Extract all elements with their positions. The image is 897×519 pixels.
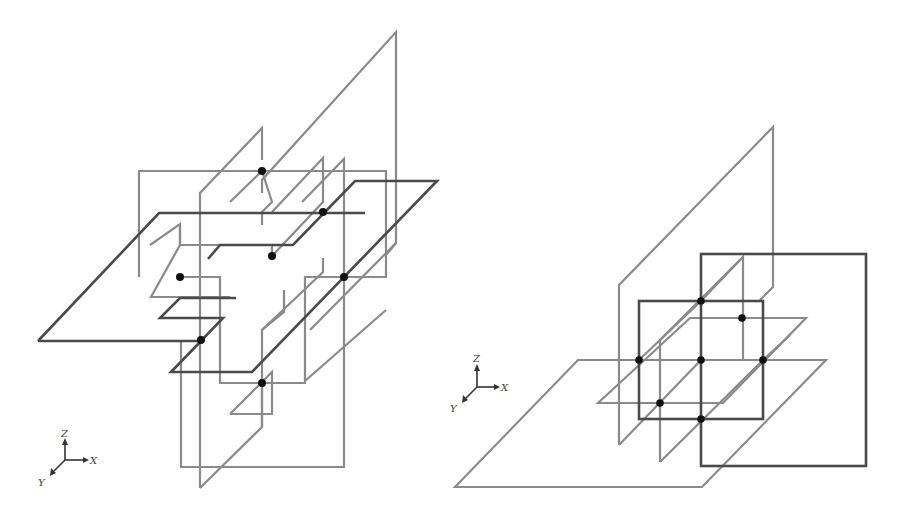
left-diag-1 xyxy=(305,310,386,381)
right-x-label: X xyxy=(500,382,509,393)
right-tall-plane xyxy=(619,127,773,445)
right-point-1 xyxy=(697,297,705,305)
right-point-3 xyxy=(635,356,643,364)
right-point-7 xyxy=(697,415,705,423)
left-small-plane-f xyxy=(230,372,272,414)
left-point-1 xyxy=(258,167,266,175)
left-small-plane-b xyxy=(150,224,272,245)
left-dark-plane-2 xyxy=(38,298,236,341)
left-point-7 xyxy=(258,379,266,387)
left-panel: Z X Y xyxy=(38,32,437,488)
right-axes: Z X Y xyxy=(450,353,509,414)
left-point-4 xyxy=(268,252,276,260)
right-y-axis xyxy=(466,387,477,398)
left-oblique-plane-1-lower xyxy=(200,383,262,488)
right-z-arrow-icon xyxy=(474,364,480,371)
right-z-label: Z xyxy=(472,353,481,364)
right-panel: Z X Y xyxy=(450,127,866,487)
left-z-label: Z xyxy=(60,428,69,439)
left-point-6 xyxy=(197,336,205,344)
left-oblique-plane-1 xyxy=(200,128,262,488)
left-point-3 xyxy=(176,273,184,281)
left-z-arrow-icon xyxy=(62,438,68,445)
left-diag-2 xyxy=(386,243,396,255)
left-point-2 xyxy=(319,208,327,216)
right-point-6 xyxy=(656,399,664,407)
right-point-2 xyxy=(738,314,746,322)
left-y-axis xyxy=(54,460,65,471)
left-small-plane-c xyxy=(230,171,272,225)
left-axes: Z X Y xyxy=(38,428,98,488)
right-x-arrow-icon xyxy=(494,384,500,390)
right-point-4 xyxy=(697,356,705,364)
left-point-5 xyxy=(340,273,348,281)
diagram-canvas: Z X Y xyxy=(0,0,897,519)
left-y-label: Y xyxy=(38,477,46,488)
right-point-5 xyxy=(759,356,767,364)
left-x-label: X xyxy=(89,455,98,466)
left-x-arrow-icon xyxy=(83,457,89,463)
left-diag-3 xyxy=(262,258,323,330)
right-y-label: Y xyxy=(450,403,458,414)
